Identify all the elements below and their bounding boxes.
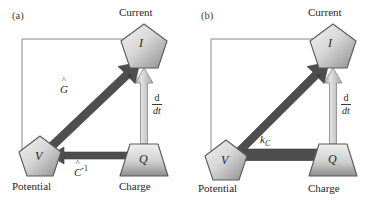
plus-sign: + <box>127 70 132 80</box>
edge-label-q-to-i-curved: kC <box>260 133 270 148</box>
node-potential-symbol: V <box>221 153 228 168</box>
edge-label-q-to-v-exponent: -1 <box>81 164 88 173</box>
edge-q-to-i-curved <box>228 62 329 161</box>
ddt-denominator: dt <box>341 106 351 116</box>
edge-v-to-i <box>44 62 140 154</box>
plus-sign: + <box>316 70 321 80</box>
edge-q-to-i <box>135 68 153 144</box>
edge-label-q-to-i: d dt <box>341 93 351 116</box>
node-current <box>310 24 356 68</box>
hat-accent-c: ^ <box>74 159 81 168</box>
edge-q-to-v <box>50 147 133 164</box>
node-current-caption: Current <box>119 6 153 18</box>
node-charge-symbol: Q <box>139 152 148 167</box>
node-charge-symbol: Q <box>328 152 337 167</box>
node-charge-caption: Charge <box>119 180 151 192</box>
node-current-symbol: I <box>328 36 332 51</box>
ddt-numerator: d <box>152 93 162 103</box>
figure-root: (a) I V Q Current Potential Charge ^ G d… <box>0 0 377 204</box>
edge-label-v-to-i: ^ G <box>60 83 68 95</box>
hat-accent-g: ^ <box>60 76 68 85</box>
node-charge-caption: Charge <box>308 182 340 194</box>
panel-a-label: (a) <box>12 10 24 21</box>
panel-a: (a) I V Q Current Potential Charge ^ G d… <box>0 0 188 204</box>
node-potential-caption: Potential <box>12 180 51 192</box>
node-current-symbol: I <box>139 36 143 51</box>
node-potential-symbol: V <box>35 149 42 164</box>
node-potential-caption: Potential <box>198 182 237 194</box>
node-current-caption: Current <box>308 6 342 18</box>
panel-b: (b) I V Q Current Potential Charge kC d … <box>189 0 377 204</box>
edge-q-to-i <box>324 68 342 144</box>
ddt-denominator: dt <box>152 106 162 116</box>
ddt-numerator: d <box>341 93 351 103</box>
node-current <box>121 24 167 68</box>
edge-label-q-to-v: ^ C -1 <box>74 164 88 178</box>
edge-label-q-to-i: d dt <box>152 93 162 116</box>
panel-b-label: (b) <box>201 10 213 21</box>
edge-label-kc-subscript: C <box>265 139 270 148</box>
